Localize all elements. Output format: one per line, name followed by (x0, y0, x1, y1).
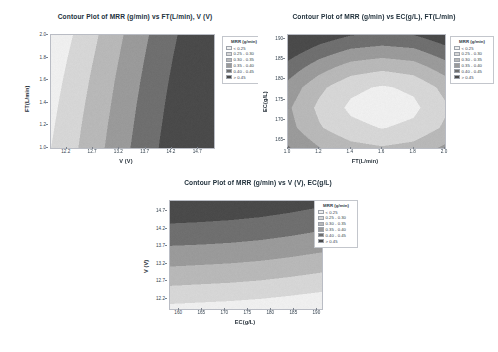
x-tick-mark (318, 147, 319, 149)
legend-label: 0.25 - 0.30 (462, 51, 482, 56)
y-tick-label: 13.7 (156, 243, 165, 248)
legend-swatch (318, 210, 324, 214)
x-tick-label: 14.7 (193, 149, 202, 154)
legend-swatch (226, 75, 232, 79)
legend-label: > 0.45 (234, 75, 246, 80)
legend-label: 0.35 - 0.40 (326, 227, 346, 232)
y-tick-mark (46, 79, 48, 80)
y-tick-mark (165, 228, 167, 229)
legend-swatch (318, 227, 324, 231)
x-tick-mark (350, 147, 351, 149)
legend-row: 0.25 - 0.30 (454, 51, 491, 56)
legend-swatch (318, 239, 324, 243)
legend-row: < 0.25 (226, 46, 263, 51)
legend-entries: < 0.250.25 - 0.300.30 - 0.350.35 - 0.400… (318, 210, 355, 244)
x-tick-mark (92, 147, 93, 149)
y-tick-mark (283, 99, 285, 100)
y-axis-label: EC(g/L) (262, 91, 268, 112)
legend-row: > 0.45 (454, 74, 491, 79)
legend-row: 0.40 - 0.45 (318, 233, 355, 238)
x-tick-label: 185 (290, 310, 298, 315)
y-axis-label: V (V) (143, 260, 149, 273)
legend-label: < 0.25 (326, 210, 338, 215)
x-tick-mark (224, 308, 225, 310)
x-tick-mark (413, 147, 414, 149)
legend-label: < 0.25 (462, 46, 474, 51)
x-tick-label: 180 (266, 310, 274, 315)
legend-swatch (318, 216, 324, 220)
plot-area (50, 34, 215, 149)
legend-row: 0.25 - 0.30 (226, 51, 263, 56)
legend-row: > 0.45 (226, 74, 263, 79)
x-axis-ticks: 160165170175180185190 (169, 310, 321, 318)
legend-label: > 0.45 (462, 75, 474, 80)
y-tick-mark (165, 263, 167, 264)
legend-swatch (226, 63, 232, 67)
x-tick-label: 160 (174, 310, 182, 315)
x-tick-label: 1.6 (378, 149, 384, 154)
legend-label: 0.35 - 0.40 (234, 63, 254, 68)
chart-title: Contour Plot of MRR (g/min) vs EC(g/L), … (254, 12, 494, 21)
legend-row: > 0.45 (318, 238, 355, 243)
x-axis-label: FT(L/min) (205, 158, 498, 164)
legend-swatch (454, 58, 460, 62)
legend-swatch (454, 69, 460, 73)
y-axis-ticks: 1.01.21.41.61.82.0 (30, 34, 46, 147)
y-tick-mark (46, 147, 48, 148)
legend-row: < 0.25 (318, 210, 355, 215)
legend-swatch (226, 46, 232, 50)
legend-swatch (318, 233, 324, 237)
x-tick-label: 170 (220, 310, 228, 315)
y-tick-label: 180 (275, 76, 283, 81)
x-axis-label: EC(g/L) (85, 319, 405, 325)
y-tick-mark (165, 298, 167, 299)
y-tick-label: 185 (275, 56, 283, 61)
y-tick-mark (46, 57, 48, 58)
legend-title: MRR (g/min) (226, 39, 263, 44)
contour-canvas (51, 35, 214, 148)
x-tick-label: 165 (197, 310, 205, 315)
chart-title: Contour Plot of MRR (g/min) vs FT(L/min)… (14, 12, 256, 21)
x-tick-mark (201, 308, 202, 310)
legend-label: 0.30 - 0.35 (234, 57, 254, 62)
legend-label: 0.40 - 0.45 (462, 69, 482, 74)
y-tick-mark (165, 245, 167, 246)
y-tick-mark (46, 102, 48, 103)
x-tick-mark (293, 308, 294, 310)
legend-row: 0.30 - 0.35 (226, 57, 263, 62)
y-tick-label: 165 (275, 136, 283, 141)
legend-row: 0.30 - 0.35 (318, 221, 355, 226)
legend-swatch (454, 46, 460, 50)
x-tick-label: 175 (243, 310, 251, 315)
x-tick-label: 1.4 (347, 149, 353, 154)
y-axis-ticks: 12.212.713.213.714.214.7 (149, 200, 165, 308)
contour-panel-ft-v: Contour Plot of MRR (g/min) vs FT(L/min)… (14, 12, 256, 172)
y-tick-mark (46, 124, 48, 125)
legend-label: 0.30 - 0.35 (462, 57, 482, 62)
x-tick-label: 13.7 (140, 149, 149, 154)
y-tick-label: 175 (275, 96, 283, 101)
y-tick-mark (283, 78, 285, 79)
legend-title: MRR (g/min) (454, 39, 491, 44)
legend-label: 0.40 - 0.45 (234, 69, 254, 74)
contour-panel-v-ec: Contour Plot of MRR (g/min) vs V (V), EC… (132, 178, 372, 340)
legend-row: < 0.25 (454, 46, 491, 51)
y-tick-label: 14.2 (156, 225, 165, 230)
x-tick-label: 2.0 (441, 149, 447, 154)
y-tick-label: 170 (275, 116, 283, 121)
x-tick-mark (178, 308, 179, 310)
legend: MRR (g/min) < 0.250.25 - 0.300.30 - 0.35… (450, 36, 494, 84)
y-tick-mark (283, 119, 285, 120)
x-tick-mark (66, 147, 67, 149)
legend-row: 0.30 - 0.35 (454, 57, 491, 62)
x-tick-label: 1.2 (315, 149, 321, 154)
x-tick-mark (316, 308, 317, 310)
x-tick-label: 190 (313, 310, 321, 315)
legend-row: 0.35 - 0.40 (454, 63, 491, 68)
x-tick-label: 1.8 (409, 149, 415, 154)
legend: MRR (g/min) < 0.250.25 - 0.300.30 - 0.35… (314, 200, 358, 248)
legend-swatch (226, 52, 232, 56)
x-tick-mark (381, 147, 382, 149)
legend-label: 0.30 - 0.35 (326, 221, 346, 226)
x-tick-mark (197, 147, 198, 149)
